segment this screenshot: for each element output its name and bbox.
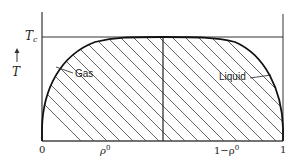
liquid-region-label: Liquid — [219, 72, 246, 82]
y-axis-label: T — [12, 66, 20, 78]
up-arrow-icon — [15, 48, 20, 62]
x-tick-zero: 0 — [39, 145, 45, 155]
phase-diagram — [0, 0, 298, 159]
liquid-leader-line — [250, 75, 271, 78]
x-tick-one: 1 — [280, 145, 286, 155]
x-tick-rho0: ρ0 — [100, 145, 110, 156]
critical-temperature-label: Tc — [25, 30, 38, 44]
gas-region-label: Gas — [75, 69, 93, 79]
coexistence-hatching — [0, 0, 298, 159]
x-tick-one-minus-rho0: 1−ρ0 — [214, 145, 239, 156]
